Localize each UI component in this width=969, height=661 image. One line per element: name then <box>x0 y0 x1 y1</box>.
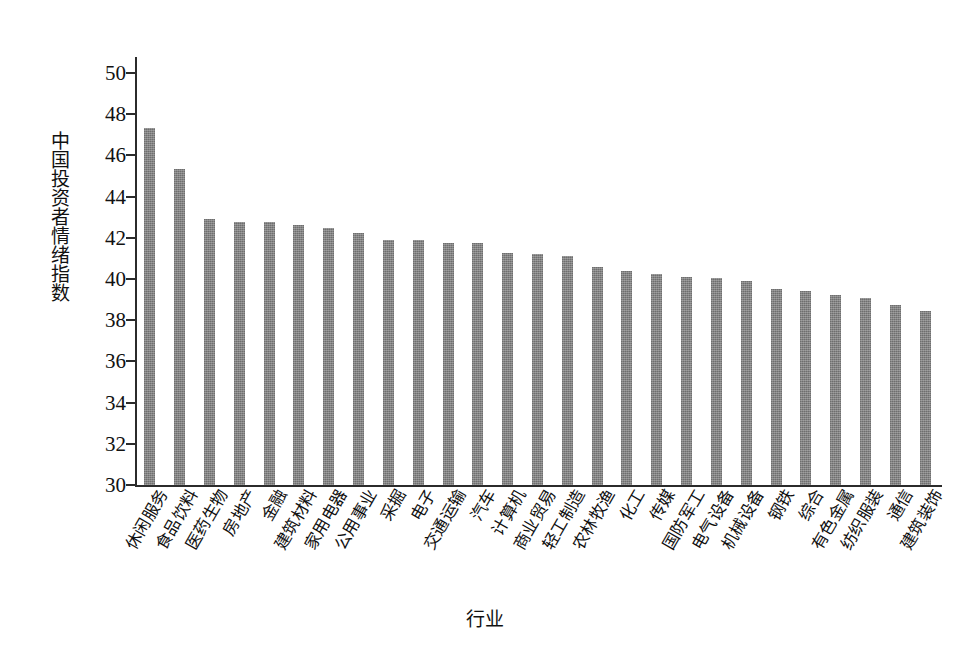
y-tick-label: 44 <box>105 186 126 207</box>
x-axis-tick-labels: 休闲服务食品饮料医药生物房地产金融建筑材料家用电器公用事业采掘电子交通运输汽车计… <box>135 487 940 617</box>
y-tick-mark <box>126 484 135 486</box>
y-tick-label: 36 <box>105 351 126 372</box>
bar <box>413 240 424 485</box>
bar <box>383 240 394 485</box>
y-tick-mark <box>126 443 135 445</box>
bar <box>264 222 275 485</box>
y-tick-mark <box>126 113 135 115</box>
bar <box>443 243 454 485</box>
bar <box>890 305 901 485</box>
y-tick-label: 48 <box>105 104 126 125</box>
bar <box>562 256 573 485</box>
bar <box>651 274 662 485</box>
bar <box>830 295 841 485</box>
investor-sentiment-bar-chart: 中国投资者情绪指数 3032343638404244464850 休闲服务食品饮… <box>0 0 969 661</box>
bar <box>800 291 811 485</box>
y-tick-mark <box>126 154 135 156</box>
x-tick-label: 化工 <box>617 487 648 524</box>
bar <box>323 228 334 486</box>
bar <box>293 225 304 485</box>
bar <box>741 281 752 485</box>
bar <box>353 233 364 485</box>
bar <box>472 243 483 485</box>
y-tick-label: 38 <box>105 310 126 331</box>
y-tick-mark <box>126 402 135 404</box>
bars-layer <box>135 73 940 485</box>
y-tick-mark <box>126 196 135 198</box>
y-tick-label: 40 <box>105 269 126 290</box>
bar <box>144 128 155 485</box>
y-tick-label: 32 <box>105 433 126 454</box>
plot-area: 3032343638404244464850 <box>135 73 940 485</box>
bar <box>174 169 185 485</box>
bar <box>592 267 603 485</box>
y-tick-mark <box>126 72 135 74</box>
bar <box>621 271 632 485</box>
y-tick-label: 42 <box>105 227 126 248</box>
bar <box>860 298 871 485</box>
bar <box>681 277 692 485</box>
x-tick-label: 采掘 <box>379 487 410 524</box>
y-tick-mark <box>126 278 135 280</box>
y-tick-mark <box>126 319 135 321</box>
bar <box>234 222 245 485</box>
y-tick-mark <box>126 237 135 239</box>
x-tick-label: 钢铁 <box>766 487 797 524</box>
bar <box>204 219 215 485</box>
y-axis-title: 中国投资者情绪指数 <box>42 131 72 302</box>
bar <box>711 278 722 485</box>
bar <box>502 253 513 485</box>
bar <box>920 311 931 485</box>
y-tick-label: 30 <box>105 475 126 496</box>
bar <box>532 254 543 485</box>
y-tick-label: 34 <box>105 392 126 413</box>
y-tick-mark <box>126 360 135 362</box>
y-tick-label: 50 <box>105 63 126 84</box>
bar <box>771 289 782 485</box>
x-axis-title: 行业 <box>0 604 969 631</box>
y-tick-label: 46 <box>105 145 126 166</box>
